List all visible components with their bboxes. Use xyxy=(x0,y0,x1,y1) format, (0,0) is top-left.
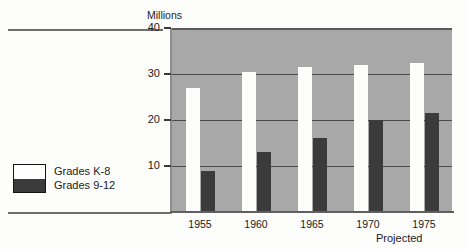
bar-grades-k8-1960 xyxy=(242,72,256,212)
x-tick-label-1960: 1960 xyxy=(236,219,276,230)
bar-grades-9-12-1960 xyxy=(257,152,271,212)
y-tick-mark-40 xyxy=(164,27,171,29)
x-tick-label-1975: 1975 xyxy=(404,219,444,230)
x-tick-label-1965: 1965 xyxy=(292,219,332,230)
y-tick-mark-20 xyxy=(164,119,171,121)
bottom-rule xyxy=(8,212,172,214)
bar-grades-k8-1955 xyxy=(186,88,200,212)
chart-figure: Millions 40302010 19551960196519701975 P… xyxy=(0,0,468,249)
bar-grades-9-12-1975 xyxy=(425,113,439,212)
bar-grades-k8-1965 xyxy=(298,67,312,212)
y-tick-label-20: 20 xyxy=(134,114,160,125)
bar-grades-9-12-1955 xyxy=(201,171,215,212)
bar-grades-k8-1970 xyxy=(354,65,368,212)
plot-area xyxy=(172,28,452,212)
legend-swatch-grades-9-12 xyxy=(14,179,45,193)
bar-grades-k8-1975 xyxy=(410,63,424,213)
y-tick-label-40: 40 xyxy=(134,22,160,33)
y-axis-title: Millions xyxy=(147,10,182,21)
legend-swatch-grades-k8 xyxy=(14,165,45,179)
bar-grades-9-12-1970 xyxy=(369,120,383,212)
x-tick-label-1955: 1955 xyxy=(180,219,220,230)
y-axis-line xyxy=(170,28,172,214)
bar-grades-9-12-1965 xyxy=(313,138,327,212)
projected-note: Projected xyxy=(376,232,422,244)
x-tick-label-1970: 1970 xyxy=(348,219,388,230)
y-tick-mark-10 xyxy=(164,165,171,167)
legend-label-grades-k8: Grades K-8 xyxy=(54,165,110,177)
x-axis-line xyxy=(170,211,454,213)
legend-swatch xyxy=(13,164,46,193)
y-tick-mark-30 xyxy=(164,73,171,75)
y-tick-label-30: 30 xyxy=(134,68,160,79)
legend-label-grades-9-12: Grades 9-12 xyxy=(54,179,115,191)
plot-top-border xyxy=(172,28,452,30)
y-tick-label-10: 10 xyxy=(134,160,160,171)
